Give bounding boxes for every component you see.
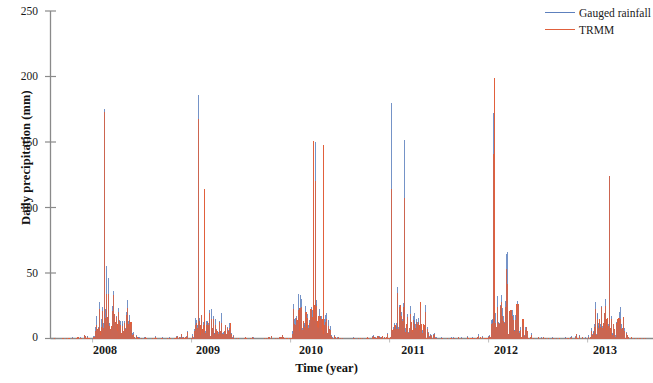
series-gauged-rainfall xyxy=(62,95,645,339)
precipitation-timeseries-chart: Gauged rainfall TRMM Daily precipitation… xyxy=(0,0,653,383)
plot-area xyxy=(0,0,653,383)
series-trmm xyxy=(54,78,645,339)
axis-spines xyxy=(51,11,653,339)
